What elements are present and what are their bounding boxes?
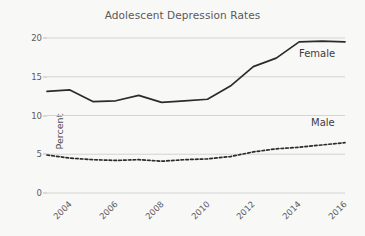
x-tick-label: 2012: [237, 197, 259, 219]
y-tick-label: 10: [31, 111, 42, 121]
x-tick-label: 2014: [283, 197, 305, 219]
y-tick-label: 5: [37, 149, 42, 159]
series-label-male: Male: [311, 117, 335, 128]
y-tick-label: 20: [31, 33, 42, 43]
plot-area: Percent 05101520 20042006200820102012201…: [47, 38, 345, 193]
x-tick-text: 2012: [235, 199, 257, 221]
x-tick-label: 2010: [191, 197, 213, 219]
x-tick-text: 2004: [51, 199, 73, 221]
x-tick-label: 2008: [145, 197, 167, 219]
x-tick-label: 2006: [99, 197, 121, 219]
x-tick-text: 2006: [97, 199, 119, 221]
series-line-male: [47, 143, 345, 162]
x-tick-label: 2016: [328, 197, 350, 219]
chart-container: Adolescent Depression Rates Percent 0510…: [0, 0, 365, 236]
y-tick-label: 0: [37, 188, 42, 198]
x-tick-text: 2014: [281, 199, 303, 221]
x-tick-label: 2004: [53, 197, 75, 219]
x-tick-text: 2016: [326, 199, 348, 221]
y-tick-label: 15: [31, 72, 42, 82]
chart-title: Adolescent Depression Rates: [0, 9, 365, 21]
chart-plot-svg: [47, 38, 345, 193]
gridlines: [47, 38, 345, 193]
series-label-female: Female: [299, 48, 335, 59]
x-tick-text: 2010: [189, 199, 211, 221]
x-tick-text: 2008: [143, 199, 165, 221]
